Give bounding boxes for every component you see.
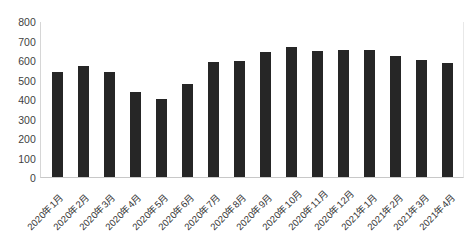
bar	[182, 84, 193, 177]
bar-slot	[70, 22, 96, 177]
bars-layer	[41, 22, 463, 177]
bar-slot	[174, 22, 200, 177]
bar-slot	[44, 22, 70, 177]
bar	[208, 62, 219, 177]
bar	[416, 60, 427, 177]
bar-slot	[434, 22, 460, 177]
bar-slot	[278, 22, 304, 177]
y-axis-tick: 700	[18, 36, 36, 48]
y-axis: 8007006005004003002001000	[0, 22, 36, 178]
bar-slot	[96, 22, 122, 177]
y-axis-tick: 600	[18, 55, 36, 67]
bar	[104, 72, 115, 177]
bar-slot	[382, 22, 408, 177]
bar	[260, 52, 271, 177]
bar	[78, 66, 89, 177]
bar-slot	[330, 22, 356, 177]
bar	[286, 47, 297, 177]
bar	[338, 50, 349, 177]
bar-slot	[304, 22, 330, 177]
bar	[156, 99, 167, 177]
bar	[312, 51, 323, 177]
bar	[234, 61, 245, 177]
x-axis-slot: 2021年4月	[435, 180, 461, 246]
bar-slot	[122, 22, 148, 177]
y-axis-tick: 500	[18, 75, 36, 87]
bar-slot	[148, 22, 174, 177]
bar	[390, 56, 401, 177]
bar-slot	[200, 22, 226, 177]
y-axis-tick: 400	[18, 94, 36, 106]
y-axis-tick: 200	[18, 133, 36, 145]
bar-chart: 8007006005004003002001000 2020年1月2020年2月…	[0, 0, 472, 248]
plot-area	[40, 22, 464, 178]
bar	[442, 63, 453, 177]
bar-slot	[226, 22, 252, 177]
bar	[364, 50, 375, 177]
bar-slot	[252, 22, 278, 177]
y-axis-tick: 100	[18, 153, 36, 165]
bar	[130, 92, 141, 177]
y-axis-tick: 300	[18, 114, 36, 126]
y-axis-tick: 800	[18, 16, 36, 28]
bar	[52, 72, 63, 177]
x-axis: 2020年1月2020年2月2020年3月2020年4月2020年5月2020年…	[40, 180, 464, 246]
bar-slot	[408, 22, 434, 177]
bar-slot	[356, 22, 382, 177]
y-axis-tick: 0	[30, 172, 36, 184]
